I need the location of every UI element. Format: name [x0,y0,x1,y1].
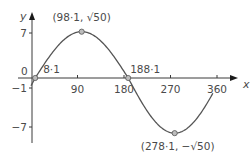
point-marker-icon [33,75,38,80]
point-marker-icon [126,75,131,80]
y-tick-label: −1 [12,82,27,94]
origin-label: 0 [21,65,28,77]
x-axis-arrow-icon [230,75,238,81]
y-ticks: 7−1−7 [12,27,32,133]
y-tick-label: 7 [20,27,27,39]
y-axis-label: y [19,10,27,23]
y-tick-label: −7 [12,121,27,133]
point-marker-icon [172,131,177,136]
sine-graph: 90180270360 7−1−7 x y 0 8·1(98·1, √50)18… [0,0,251,159]
x-tick-label: 270 [160,83,180,95]
x-tick-label: 90 [71,83,84,95]
point-label: 8·1 [43,63,60,75]
point-marker-icon [79,29,84,34]
y-axis-arrow-icon [29,12,35,20]
x-axis-label: x [242,78,250,91]
point-label: (98·1, √50) [53,11,111,23]
x-tick-label: 180 [114,83,134,95]
point-label: (278·1, −√50) [141,140,215,152]
annotations: 8·1(98·1, √50)188·1(278·1, −√50) [33,11,215,152]
point-label: 188·1 [130,63,160,75]
x-tick-label: 360 [207,83,227,95]
